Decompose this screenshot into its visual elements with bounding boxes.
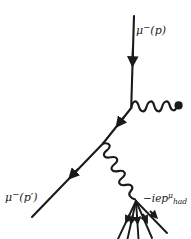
internal-muon-line (103, 108, 131, 144)
incoming-muon-label: μ−(p) (136, 23, 166, 36)
external-photon-wavy-line (131, 101, 176, 111)
incoming-muon-momentum: (p) (150, 24, 166, 37)
outgoing-muon-line (32, 144, 103, 218)
hadron-current-subscript: had (173, 197, 187, 206)
virtual-photon-wavy-line (103, 143, 135, 199)
outgoing-muon-label: μ−(p′) (5, 190, 37, 203)
hadron-jet-lines (118, 201, 167, 239)
photon-endpoint-dot (175, 101, 183, 109)
feynman-diagram-figure: μ−(p) μ−(p′) −iepμhad (0, 0, 191, 239)
outgoing-muon-momentum: (p′) (19, 191, 37, 204)
incoming-muon-line (131, 16, 134, 108)
hadron-current-prefix: −iep (143, 192, 168, 204)
hadron-current-label: −iepμhad (143, 192, 187, 205)
